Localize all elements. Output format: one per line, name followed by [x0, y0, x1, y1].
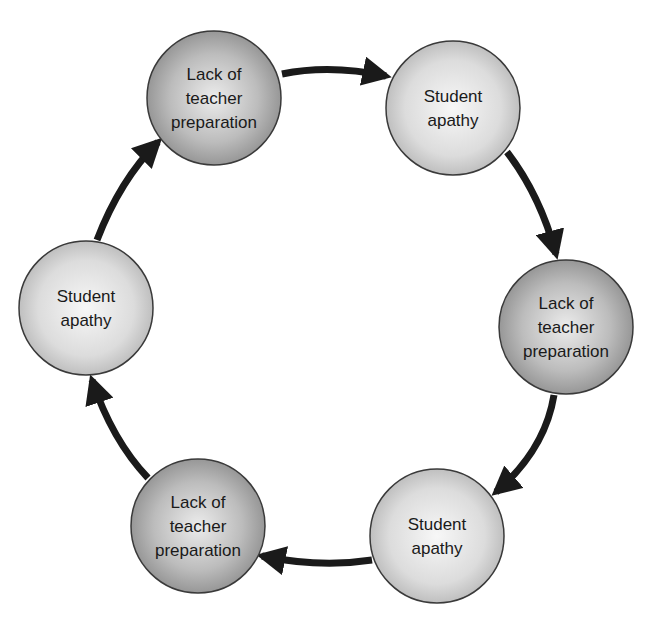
- node-label-line: apathy: [427, 111, 479, 130]
- node-label-line: apathy: [60, 311, 112, 330]
- node-circle: [370, 469, 504, 603]
- node-label-line: teacher: [538, 318, 595, 337]
- arrow-n1-to-n2: [282, 69, 386, 76]
- cycle-diagram: Lack ofteacherpreparationStudentapathyLa…: [0, 0, 645, 633]
- node-label-line: preparation: [523, 342, 609, 361]
- node-student-apathy: Studentapathy: [19, 241, 153, 375]
- node-lack-of-teacher-preparation: Lack ofteacherpreparation: [499, 260, 633, 394]
- node-label-line: preparation: [155, 541, 241, 560]
- node-student-apathy: Studentapathy: [370, 469, 504, 603]
- node-label-line: apathy: [411, 539, 463, 558]
- arrow-n3-to-n4: [496, 395, 554, 492]
- node-label-line: teacher: [170, 517, 227, 536]
- arrow-n5-to-n6: [92, 380, 148, 478]
- node-circle: [386, 41, 520, 175]
- arrow-n2-to-n3: [507, 152, 556, 254]
- node-lack-of-teacher-preparation: Lack ofteacherpreparation: [147, 31, 281, 165]
- node-label-line: Lack of: [187, 65, 242, 84]
- node-label-line: Lack of: [171, 493, 226, 512]
- node-circle: [19, 241, 153, 375]
- node-student-apathy: Studentapathy: [386, 41, 520, 175]
- node-label-line: preparation: [171, 113, 257, 132]
- node-label-line: Lack of: [539, 294, 594, 313]
- arrow-n4-to-n5: [262, 556, 372, 563]
- node-label-line: Student: [424, 87, 483, 106]
- arrow-n6-to-n1: [97, 142, 158, 240]
- node-label-line: teacher: [186, 89, 243, 108]
- node-label-line: Student: [57, 287, 116, 306]
- node-lack-of-teacher-preparation: Lack ofteacherpreparation: [131, 459, 265, 593]
- node-label-line: Student: [408, 515, 467, 534]
- nodes: Lack ofteacherpreparationStudentapathyLa…: [19, 31, 633, 603]
